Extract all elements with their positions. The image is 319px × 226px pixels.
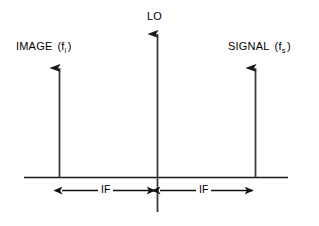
if-left-label: IF: [98, 184, 113, 195]
signal-symbol-subscript: s: [282, 46, 286, 55]
signal-close-paren: ): [287, 40, 291, 52]
diagram-canvas: [0, 0, 319, 226]
lo-label-text: LO: [147, 10, 162, 22]
image-symbol-subscript: i: [65, 46, 67, 55]
if-right-label: IF: [196, 184, 211, 195]
signal-label-text: SIGNAL: [228, 40, 270, 52]
signal-line-label: SIGNAL(fs): [228, 40, 291, 54]
image-label-text: IMAGE: [16, 40, 52, 52]
frequency-spectrum-diagram: IMAGE(fi) LO SIGNAL(fs) IF IF: [0, 0, 319, 226]
image-close-paren: ): [68, 40, 72, 52]
lo-line-label: LO: [147, 10, 162, 22]
image-line-label: IMAGE(fi): [16, 40, 72, 54]
